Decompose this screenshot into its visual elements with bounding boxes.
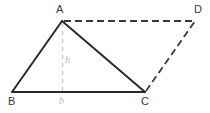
vertex-label-a: A xyxy=(56,4,63,15)
edge-ab-solid xyxy=(12,21,62,92)
edge-cd-dashed xyxy=(146,21,195,91)
vertex-label-c: C xyxy=(141,96,149,107)
edge-ca-solid xyxy=(62,21,145,92)
geometry-canvas xyxy=(0,0,210,113)
geometry-figure: A B C D h b xyxy=(0,0,210,113)
base-label: b xyxy=(59,96,64,106)
vertex-label-b: B xyxy=(8,96,15,107)
height-label: h xyxy=(65,55,70,65)
vertex-label-d: D xyxy=(194,4,202,15)
